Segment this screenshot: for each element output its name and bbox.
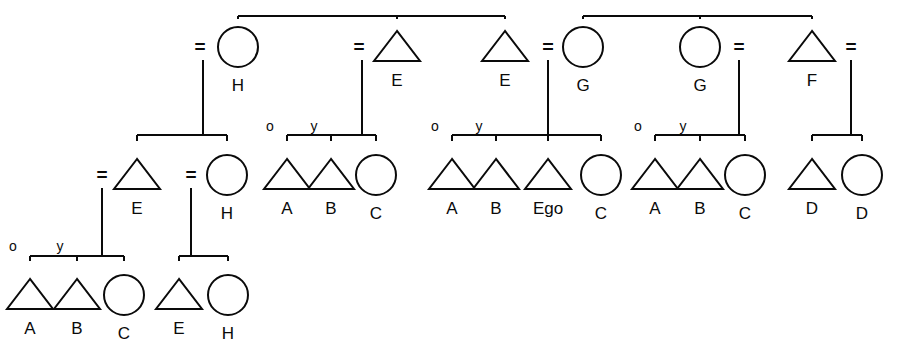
- kin-node-g2n13: D: [789, 159, 835, 218]
- marriage-equals-sign: =: [542, 36, 553, 57]
- male-triangle: [525, 159, 571, 189]
- kin-node-g2n6: Ao: [429, 118, 475, 218]
- birth-order-mark: o: [266, 118, 274, 134]
- kin-node-label: D: [806, 199, 818, 218]
- kin-node-label: A: [281, 199, 293, 218]
- birth-order-mark: o: [431, 118, 439, 134]
- kin-node-label: E: [391, 71, 402, 90]
- kin-node-g2n4: By: [308, 118, 354, 218]
- male-triangle: [482, 31, 528, 61]
- kin-node-g1n4: G=: [542, 27, 603, 95]
- kin-node-label: Ego: [533, 199, 563, 218]
- birth-order-mark: y: [680, 118, 687, 134]
- sibling-bar-group: [238, 16, 505, 19]
- kin-node-label: B: [325, 199, 336, 218]
- kin-node-g2n12: C: [725, 155, 765, 223]
- marriage-equals-sign: =: [96, 164, 107, 185]
- kin-node-g2n7: By: [473, 118, 519, 218]
- male-triangle: [789, 159, 835, 189]
- kin-node-label: B: [490, 199, 501, 218]
- kin-node-g3n5: H: [208, 275, 248, 343]
- kin-node-g2n3: Ao: [264, 118, 310, 218]
- marriage-equals-sign: =: [733, 36, 744, 57]
- kin-node-g3n4: E: [156, 279, 202, 338]
- kin-node-g1n5: G=: [680, 27, 745, 95]
- kin-node-g2n1: E=: [96, 159, 160, 218]
- male-triangle: [429, 159, 475, 189]
- female-circle: [356, 155, 396, 195]
- marriage-equals-sign: =: [185, 164, 196, 185]
- kin-node-g2n10: Ao: [632, 118, 678, 218]
- birth-order-mark: o: [9, 238, 17, 254]
- kin-node-label: G: [576, 76, 589, 95]
- kin-node-g2n8: Ego: [525, 159, 571, 218]
- kin-node-g2n2: H=: [185, 155, 247, 223]
- male-triangle: [156, 279, 202, 309]
- female-circle: [208, 275, 248, 315]
- female-circle: [104, 275, 144, 315]
- sibling-bar-group: [812, 125, 862, 141]
- kin-node-label: E: [131, 199, 142, 218]
- male-triangle: [677, 159, 723, 189]
- kin-node-g2n9: C: [581, 155, 621, 223]
- male-triangle: [264, 159, 310, 189]
- birth-order-mark: o: [634, 118, 642, 134]
- kin-node-label: F: [807, 71, 817, 90]
- birth-order-mark: y: [311, 118, 318, 134]
- sibling-bar-group: [137, 125, 227, 141]
- kin-node-label: G: [693, 76, 706, 95]
- sibling-bar-group: [179, 246, 228, 261]
- kin-node-label: C: [118, 324, 130, 343]
- kin-node-label: C: [739, 204, 751, 223]
- kin-node-label: B: [71, 319, 82, 338]
- birth-order-mark: y: [476, 118, 483, 134]
- sibling-bar-group: [655, 125, 745, 141]
- kin-node-label: E: [173, 319, 184, 338]
- female-circle: [842, 155, 882, 195]
- female-circle: [581, 155, 621, 195]
- marriage-equals-sign: =: [353, 36, 364, 57]
- kin-node-label: A: [24, 319, 36, 338]
- kin-node-label: B: [694, 199, 705, 218]
- male-triangle: [308, 159, 354, 189]
- kin-node-label: C: [370, 204, 382, 223]
- sibling-bar-group: [583, 16, 812, 19]
- kin-node-label: A: [649, 199, 661, 218]
- birth-order-mark: y: [57, 238, 64, 254]
- kin-node-label: D: [856, 204, 868, 223]
- kin-node-g1n2: E=: [353, 31, 420, 90]
- male-triangle: [54, 279, 100, 309]
- kin-node-g2n14: D: [842, 155, 882, 223]
- kin-node-label: H: [232, 76, 244, 95]
- kin-node-g2n5: C: [356, 155, 396, 223]
- kin-node-label: H: [221, 204, 233, 223]
- male-triangle: [374, 31, 420, 61]
- male-triangle: [632, 159, 678, 189]
- kin-node-g3n1: Ao: [7, 238, 53, 338]
- kin-node-label: C: [595, 204, 607, 223]
- sibling-bar-group: [30, 246, 124, 261]
- kin-node-g3n3: C: [104, 275, 144, 343]
- sibling-bar-group: [452, 125, 601, 141]
- kin-node-g2n11: By: [677, 118, 723, 218]
- female-circle: [218, 27, 258, 67]
- female-circle: [207, 155, 247, 195]
- male-triangle: [7, 279, 53, 309]
- female-circle: [680, 27, 720, 67]
- male-triangle: [473, 159, 519, 189]
- female-circle: [725, 155, 765, 195]
- female-circle: [563, 27, 603, 67]
- male-triangle: [114, 159, 160, 189]
- marriage-equals-sign: =: [845, 36, 856, 57]
- kin-node-label: A: [446, 199, 458, 218]
- kinship-diagram-canvas: H=E=E=G=G=F=E=H=AoByCAoByEgoCAoByCDDAoBy…: [0, 0, 899, 351]
- male-triangle: [789, 31, 835, 61]
- kinship-diagram-svg: H=E=E=G=G=F=E=H=AoByCAoByEgoCAoByCDDAoBy…: [0, 0, 899, 351]
- kin-node-label: H: [222, 324, 234, 343]
- kin-node-g3n2: By: [54, 238, 100, 338]
- marriage-equals-sign: =: [194, 36, 205, 57]
- kin-node-g1n6: F=: [789, 31, 857, 90]
- kin-node-label: E: [499, 71, 510, 90]
